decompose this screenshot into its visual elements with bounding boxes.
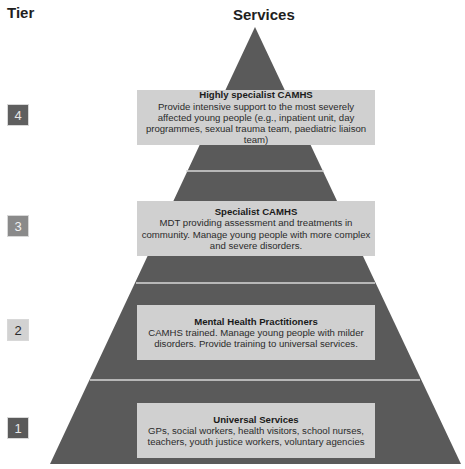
tier-3-service-box: Specialist CAMHS MDT providing assessmen… <box>137 201 375 256</box>
tier-4-service-box: Highly specialist CAMHS Provide intensiv… <box>137 90 375 145</box>
tier-4-title: Highly specialist CAMHS <box>141 89 371 100</box>
tier-1-service-box: Universal Services GPs, social workers, … <box>137 403 375 458</box>
tier-3-title: Specialist CAMHS <box>141 206 371 217</box>
tier-1-badge: 1 <box>7 417 29 439</box>
tier-2-badge: 2 <box>7 319 29 341</box>
tier-2-description: CAMHS trained. Manage young people with … <box>141 327 371 350</box>
tier-4-description: Provide intensive support to the most se… <box>141 101 371 146</box>
tier-1-title: Universal Services <box>141 414 371 425</box>
tier-3-description: MDT providing assessment and treatments … <box>141 217 371 251</box>
tier-2-service-box: Mental Health Practitioners CAMHS traine… <box>137 305 375 360</box>
tier-2-title: Mental Health Practitioners <box>141 316 371 327</box>
tier-1-description: GPs, social workers, health visitors, sc… <box>141 425 371 448</box>
tier-4-badge: 4 <box>7 104 29 126</box>
tier-3-badge: 3 <box>7 215 29 237</box>
